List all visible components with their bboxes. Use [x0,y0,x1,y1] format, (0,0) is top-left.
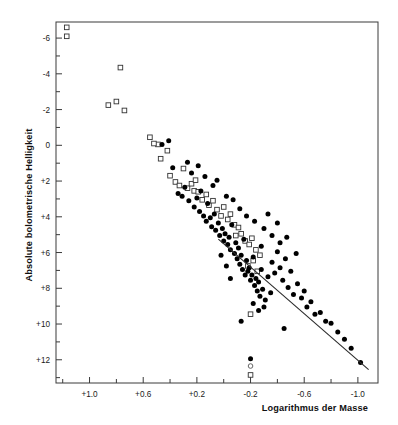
x-tick-label: -1.0 [351,390,366,399]
data-point-filled [335,330,340,335]
data-point-open-square [165,148,170,153]
data-point-filled [244,213,249,218]
data-point-open-square [258,253,263,258]
x-tick-label: -0.2 [243,390,258,399]
data-point-filled [213,228,218,233]
data-point-filled [256,280,261,285]
data-point-filled [275,221,280,226]
data-point-filled [201,213,206,218]
data-point-filled [224,263,229,268]
data-point-filled [265,212,270,217]
data-point-filled [278,265,283,270]
data-point-open-square [64,25,69,30]
data-point-open-square [114,99,119,104]
data-point-filled [192,204,197,209]
x-tick-label: +0.6 [135,390,152,399]
mass-luminosity-figure: +1.0+0.6+0.2-0.2-0.6-1.0 -6-4-20+2+4+6+8… [0,0,398,425]
data-point-filled [265,274,270,279]
data-point-filled [233,240,238,245]
data-point-open-square [122,108,127,113]
plot-frame [56,22,378,383]
y-axis-ticks [56,38,62,378]
data-point-filled [215,178,220,183]
scatter-plot-svg: +1.0+0.6+0.2-0.2-0.6-1.0 -6-4-20+2+4+6+8… [0,0,398,425]
data-point-filled [288,269,293,274]
data-point-open-square [239,231,244,236]
data-point-filled [329,321,334,326]
data-point-filled [261,226,266,231]
data-point-filled [220,226,225,231]
data-point-open-square [248,373,253,378]
data-point-filled [196,163,201,168]
data-point-open-square [254,248,259,253]
data-point-filled [185,160,190,165]
data-point-filled [259,267,264,272]
data-point-filled [180,194,185,199]
data-point-filled [159,142,164,147]
x-axis-tick-labels: +1.0+0.6+0.2-0.2-0.6-1.0 [81,390,365,399]
data-point-filled [212,212,217,217]
data-point-open-square [225,217,230,222]
data-point-filled [209,224,214,229]
data-point-filled [166,138,171,143]
data-point-open-square [228,212,233,217]
data-point-filled [197,209,202,214]
data-point-open-square [158,156,163,161]
data-point-filled [240,267,245,272]
data-point-filled [286,285,291,290]
data-point-filled [263,297,268,302]
data-point-filled [294,251,299,256]
data-point-open-square [181,166,186,171]
data-point-filled [259,244,264,249]
data-point-filled [268,290,273,295]
data-point-filled [278,240,283,245]
data-point-filled [248,356,253,361]
data-point-open-square [177,183,182,188]
data-point-open-square [236,225,241,230]
data-point-open-square [248,312,253,317]
series-open-circles [248,364,253,369]
data-point-open-square [219,214,224,219]
data-point-filled [229,222,234,227]
data-point-filled [251,255,256,260]
data-point-filled [241,237,246,242]
data-point-filled [304,305,309,310]
data-point-open-square [106,103,111,108]
data-point-layer [64,25,363,377]
axes-frame [56,22,378,383]
data-point-filled [236,246,241,251]
data-point-filled [291,292,296,297]
x-tick-label: +1.0 [81,390,98,399]
data-point-filled [208,215,213,220]
data-point-filled [261,305,266,310]
data-point-filled [255,288,260,293]
data-point-filled [239,319,244,324]
x-axis-ticks [63,377,358,383]
data-point-open-square [168,173,173,178]
y-tick-label: -6 [43,34,51,43]
data-point-filled [228,276,233,281]
data-point-filled [227,235,232,240]
y-tick-label: +4 [41,213,51,222]
data-point-filled [249,272,254,277]
data-point-open-square [193,178,198,183]
data-point-open-square [204,192,209,197]
data-point-filled [282,326,287,331]
data-point-filled [280,278,285,283]
data-point-open-square [118,65,123,70]
data-point-filled [219,253,224,258]
data-point-filled [252,283,257,288]
data-point-filled [237,206,242,211]
data-point-filled [217,233,222,238]
data-point-open-square [250,236,255,241]
data-point-filled [223,231,228,236]
data-point-filled [237,262,242,267]
data-point-open-square [200,198,205,203]
data-point-filled [270,260,275,265]
data-point-filled [256,308,261,313]
series-filled-circles [159,138,363,365]
data-point-open-square [64,34,69,39]
data-point-filled [342,337,347,342]
data-point-filled [170,165,175,170]
data-point-filled [210,183,215,188]
